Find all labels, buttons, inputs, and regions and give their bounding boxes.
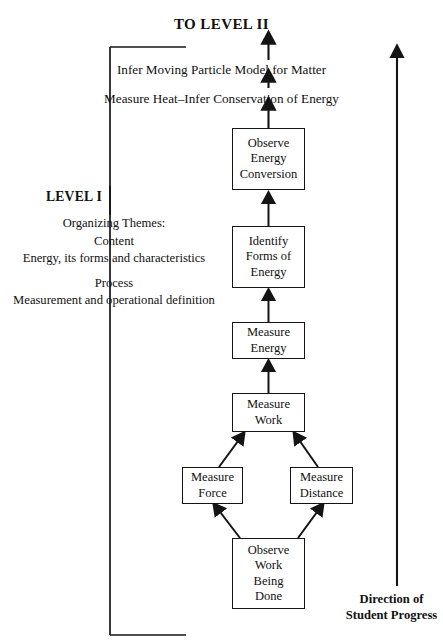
- node-observe-energy-conversion[interactable]: Observe Energy Conversion: [232, 128, 305, 190]
- statement-infer-moving-particle-model: Infer Moving Particle Model for Matter: [0, 62, 443, 78]
- level-one-bracket: [110, 47, 186, 635]
- node-measure-distance[interactable]: Measure Distance: [290, 467, 353, 504]
- to-level-two-title: TO LEVEL II: [0, 16, 443, 33]
- statement-measure-heat-infer-conservation: Measure Heat–Infer Conservation of Energ…: [0, 91, 443, 107]
- node-identify-forms-of-energy[interactable]: Identify Forms of Energy: [232, 226, 305, 288]
- node-observe-work-being-done[interactable]: Observe Work Being Done: [232, 538, 305, 609]
- level-one-label: LEVEL I: [22, 189, 102, 205]
- themes-process-text: Measurement and operational definition: [8, 292, 220, 310]
- direction-of-student-progress-label: Direction of Student Progress: [340, 591, 443, 623]
- themes-heading: Organizing Themes:: [8, 215, 220, 233]
- organizing-themes-block: Organizing Themes: Content Energy, its f…: [8, 215, 220, 310]
- themes-content-label: Content: [8, 233, 220, 251]
- node-measure-work[interactable]: Measure Work: [232, 393, 305, 432]
- direction-line-2: Student Progress: [340, 607, 443, 623]
- diagram-canvas: TO LEVEL II Infer Moving Particle Model …: [0, 0, 443, 642]
- node-measure-energy[interactable]: Measure Energy: [232, 322, 305, 359]
- themes-process-label: Process: [8, 275, 220, 293]
- node-measure-force[interactable]: Measure Force: [182, 467, 243, 504]
- themes-content-text: Energy, its forms and characteristics: [8, 250, 220, 268]
- direction-line-1: Direction of: [340, 591, 443, 607]
